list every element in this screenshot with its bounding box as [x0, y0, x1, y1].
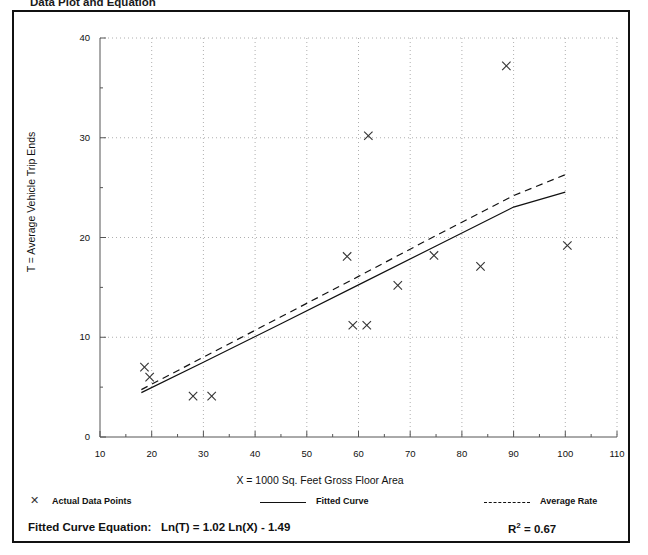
x-tick-label: 60 — [344, 448, 374, 459]
data-point-marker — [140, 363, 148, 371]
x-tick-label: 10 — [85, 448, 115, 459]
chart-legend: ✕ Actual Data Points Fitted Curve Averag… — [20, 492, 630, 512]
r-squared-exponent: 2 — [516, 521, 520, 530]
data-point-marker — [189, 392, 197, 400]
data-point-marker — [145, 373, 153, 381]
x-tick-label: 30 — [188, 448, 218, 459]
x-tick-label: 80 — [447, 448, 477, 459]
chart-page: Data Plot and Equation T = Average Vehic… — [0, 0, 648, 555]
x-tick-label: 90 — [499, 448, 529, 459]
data-point-marker — [343, 252, 351, 260]
x-marker-icon: ✕ — [30, 494, 39, 507]
equation-label: Fitted Curve Equation: — [28, 521, 151, 533]
y-tick-label: 20 — [60, 232, 90, 243]
data-point-marker — [476, 262, 484, 270]
x-axis-title: X = 1000 Sq. Feet Gross Floor Area — [160, 474, 480, 486]
y-axis-title: T = Average Vehicle Trip Ends — [25, 107, 37, 297]
r-squared-value: = 0.67 — [524, 523, 556, 535]
equation-row: Fitted Curve Equation: Ln(T) = 1.02 Ln(X… — [28, 521, 628, 539]
dashed-line-icon — [484, 502, 530, 503]
equation-value: Ln(T) = 1.02 Ln(X) - 1.49 — [161, 521, 290, 533]
x-tick-label: 70 — [395, 448, 425, 459]
x-tick-label: 20 — [137, 448, 167, 459]
y-tick-label: 40 — [60, 32, 90, 43]
x-tick-label: 100 — [550, 448, 580, 459]
y-tick-label: 30 — [60, 132, 90, 143]
fitted-curve-equation: Fitted Curve Equation: Ln(T) = 1.02 Ln(X… — [28, 521, 290, 533]
data-point-marker — [364, 132, 372, 140]
y-tick-label: 0 — [60, 431, 90, 442]
data-point-marker — [502, 62, 510, 70]
data-point-marker — [349, 321, 357, 329]
data-point-marker — [563, 241, 571, 249]
y-tick-label: 10 — [60, 331, 90, 342]
data-point-marker — [207, 392, 215, 400]
plot-area: T = Average Vehicle Trip Ends X = 1000 S… — [0, 0, 648, 555]
x-tick-label: 110 — [602, 448, 632, 459]
data-point-marker — [430, 251, 438, 259]
data-point-marker — [394, 281, 402, 289]
r-squared: R2 = 0.67 — [508, 521, 556, 535]
x-tick-label: 50 — [292, 448, 322, 459]
data-point-marker — [363, 321, 371, 329]
legend-label-actual-data-points: Actual Data Points — [52, 496, 132, 506]
legend-label-average-rate: Average Rate — [540, 496, 597, 506]
legend-label-fitted-curve: Fitted Curve — [316, 496, 369, 506]
chart-canvas — [0, 0, 648, 555]
x-tick-label: 40 — [240, 448, 270, 459]
solid-line-icon — [260, 502, 306, 503]
